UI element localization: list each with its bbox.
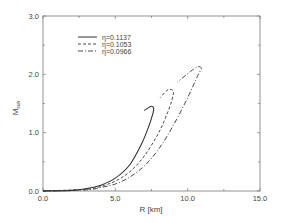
plot-frame (43, 16, 260, 191)
legend-label-3: η=0.0966 (102, 48, 131, 56)
x-tick-label: 0.0 (38, 194, 48, 203)
y-tick-label: 0.0 (29, 187, 39, 196)
legend: η=0.1137 η=0.1053 η=0.0966 (78, 34, 131, 56)
x-tick-label: 15.0 (253, 194, 268, 203)
x-tick-labels: 0.05.010.015.0 (38, 194, 268, 203)
series-line-2 (43, 89, 173, 191)
x-tick-label: 10.0 (180, 194, 195, 203)
data-series (43, 67, 201, 191)
x-axis-label: R [km] (139, 205, 162, 214)
y-tick-label: 2.0 (29, 70, 39, 79)
axis-ticks (43, 16, 260, 191)
x-tick-label: 5.0 (110, 194, 120, 203)
mass-radius-chart: 0.05.010.015.0 0.01.02.03.0 R [km] Msun … (0, 0, 282, 223)
y-axis-label: Msun (11, 100, 21, 115)
svg-text:Msun: Msun (11, 100, 21, 115)
y-tick-label: 1.0 (29, 128, 39, 137)
y-tick-label: 3.0 (29, 12, 39, 21)
series-line-1 (43, 106, 154, 191)
y-tick-labels: 0.01.02.03.0 (29, 12, 39, 196)
